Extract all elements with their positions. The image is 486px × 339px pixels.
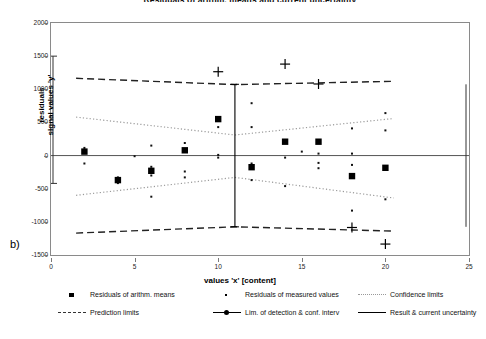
measured-value-point: [384, 198, 386, 200]
x-tick-mark: [385, 258, 386, 262]
x-tick-label: 25: [457, 263, 481, 270]
arithm-mean-point: [282, 139, 288, 145]
legend-symbol-line: [213, 312, 241, 313]
legend-item[interactable]: Lim. of detection & conf. interv: [213, 308, 339, 317]
measured-value-point: [351, 210, 353, 212]
measured-value-point: [150, 145, 152, 147]
legend-symbol-solid-line-icon: [358, 308, 386, 317]
x-tick-mark: [469, 258, 470, 262]
x-tick-mark: [218, 258, 219, 262]
legend-item[interactable]: Result & current uncertainty: [358, 308, 476, 317]
measured-value-point: [217, 157, 219, 159]
measured-value-point: [150, 166, 152, 168]
legend-item[interactable]: Confidence limits: [358, 290, 443, 299]
x-tick-label: 10: [206, 263, 230, 270]
x-tick-label: 5: [123, 263, 147, 270]
measured-value-point: [217, 126, 219, 128]
measured-value-point: [284, 185, 286, 187]
chart-legend: Residuals of arithm. meansResiduals of m…: [58, 290, 478, 336]
x-axis-tick-labels: 0510152025: [50, 258, 470, 270]
measured-value-point: [251, 102, 253, 104]
measured-value-point: [284, 157, 286, 159]
chart-page: Residuals of arithm. means and current u…: [0, 0, 486, 339]
legend-symbol-line: [69, 293, 74, 298]
measured-value-point: [318, 162, 320, 164]
measured-value-point: [351, 153, 353, 155]
y-tick-mark: [44, 23, 48, 24]
measured-value-point: [351, 127, 353, 129]
prediction-limit-lower: [76, 227, 394, 233]
arithm-mean-point: [81, 148, 87, 154]
y-tick-mark: [44, 255, 48, 256]
measured-value-point: [184, 171, 186, 173]
x-tick-mark: [135, 258, 136, 262]
measured-value-point: [351, 164, 353, 166]
x-axis-label: values 'x' [content]: [160, 276, 320, 285]
y-tick-mark: [44, 189, 48, 190]
measured-value-point: [251, 126, 253, 128]
x-tick-label: 0: [39, 263, 63, 270]
chart-title: Residuals of arithm. means and current u…: [120, 0, 380, 2]
measured-value-point: [217, 154, 219, 156]
measured-value-point: [184, 176, 186, 178]
measured-value-point: [384, 112, 386, 114]
measured-value-point: [150, 196, 152, 198]
legend-symbol-dotted-line-icon: [358, 290, 386, 299]
arithm-mean-point: [315, 139, 321, 145]
legend-label: Result & current uncertainty: [390, 309, 476, 316]
legend-item[interactable]: Residuals of arithm. means: [58, 290, 175, 299]
arithm-mean-point: [248, 164, 254, 170]
legend-symbol-line: [358, 312, 386, 313]
measured-value-point: [384, 129, 386, 131]
legend-symbol-square-icon: [58, 290, 86, 299]
prediction-limit-upper: [76, 78, 394, 84]
y-tick-mark: [44, 222, 48, 223]
measured-value-point: [150, 175, 152, 177]
legend-symbol-solid-line-marker-icon: [213, 308, 241, 317]
legend-item[interactable]: Residuals of measured values: [213, 290, 339, 299]
y-axis-label: residuals signal values 'y': [37, 45, 55, 165]
legend-symbol-dot-icon: [213, 290, 241, 299]
measured-value-point: [251, 179, 253, 181]
legend-symbol-line: [358, 294, 386, 295]
arithm-mean-point: [215, 116, 221, 122]
measured-value-point: [318, 167, 320, 169]
measured-value-point: [318, 153, 320, 155]
arithm-mean-point: [349, 173, 355, 179]
panel-label: b): [10, 238, 20, 250]
measured-value-point: [301, 151, 303, 153]
arithm-mean-point: [148, 168, 154, 174]
legend-label: Confidence limits: [390, 291, 443, 298]
measured-value-point: [134, 155, 136, 157]
measured-value-point: [83, 163, 85, 165]
legend-label: Residuals of measured values: [245, 291, 339, 298]
legend-symbol-line: [58, 312, 86, 313]
legend-label: Lim. of detection & conf. interv: [245, 309, 339, 316]
x-tick-label: 15: [290, 263, 314, 270]
chart-svg: [51, 23, 469, 255]
plot-area: [50, 22, 470, 256]
legend-label: Residuals of arithm. means: [90, 291, 175, 298]
measured-value-point: [184, 142, 186, 144]
legend-label: Prediction limits: [90, 309, 139, 316]
legend-symbol-dashed-line-icon: [58, 308, 86, 317]
x-tick-mark: [51, 258, 52, 262]
x-tick-label: 20: [373, 263, 397, 270]
arithm-mean-point: [382, 165, 388, 171]
plot-canvas: [51, 23, 469, 255]
legend-symbol-line: [225, 294, 227, 296]
legend-item[interactable]: Prediction limits: [58, 308, 139, 317]
arithm-mean-point: [182, 147, 188, 153]
x-tick-mark: [302, 258, 303, 262]
arithm-mean-point: [115, 177, 121, 183]
